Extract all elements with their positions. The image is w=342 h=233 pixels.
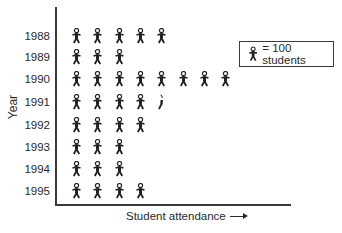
person-icon [130,69,151,89]
year-label: 1995 [22,181,50,201]
icon-group [66,181,151,201]
year-label: 1994 [22,159,50,179]
person-icon [66,47,87,67]
person-icon [87,26,108,46]
person-icon [130,26,151,46]
person-icon [66,181,87,201]
person-icon [109,137,130,157]
person-icon [87,69,108,89]
person-icon [87,115,108,135]
person-icon [87,92,108,112]
icon-group [66,115,151,135]
person-icon [130,115,151,135]
person-icon [109,26,130,46]
person-icon [109,115,130,135]
person-icon [172,69,193,89]
year-label: 1988 [22,26,50,46]
year-label: 1990 [22,69,50,89]
icon-group [66,26,172,46]
arrow-right-icon [230,216,246,217]
legend: = 100 students [239,41,334,67]
person-icon [66,159,87,179]
x-axis-line [55,204,291,206]
year-label: 1989 [22,47,50,67]
person-icon [151,69,172,89]
icon-group [66,137,130,157]
y-axis-label: Year [6,92,20,122]
person-icon [215,69,236,89]
person-icon [109,181,130,201]
legend-text: = 100 students [262,42,333,66]
person-icon [66,26,87,46]
icon-group [66,159,130,179]
person-icon [151,26,172,46]
person-icon [66,137,87,157]
person-icon [248,46,258,62]
person-icon [109,47,130,67]
person-icon [87,181,108,201]
partial-person-icon [151,92,172,112]
person-icon [109,159,130,179]
icon-group [66,69,236,89]
person-icon [66,92,87,112]
person-icon [66,115,87,135]
person-icon [194,69,215,89]
person-icon [130,181,151,201]
y-axis-line [55,7,57,206]
person-icon [109,92,130,112]
person-icon [87,159,108,179]
icon-group [66,47,130,67]
person-icon [109,69,130,89]
year-label: 1991 [22,92,50,112]
person-icon [87,47,108,67]
year-label: 1992 [22,115,50,135]
person-icon [66,69,87,89]
x-axis-label-text: Student attendance [126,210,226,222]
icon-group [66,92,172,112]
year-label: 1993 [22,137,50,157]
person-icon [130,92,151,112]
x-axis-label: Student attendance [126,210,246,222]
person-icon [87,137,108,157]
